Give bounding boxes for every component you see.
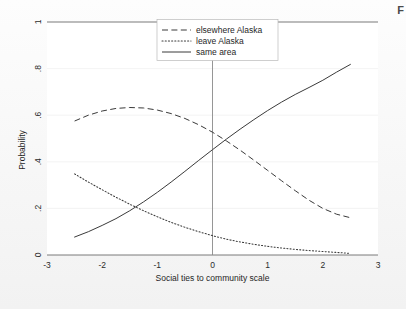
probability-plot: -3 -2 -1 0 1 2 3 Social ties to communit… [0, 0, 406, 290]
legend-label: same area [196, 47, 236, 57]
xtick-label: -1 [154, 260, 162, 270]
xtick-label: 2 [320, 260, 325, 270]
chart-legend: elsewhere Alaska leave Alaska same area [157, 20, 278, 61]
xtick-label: -2 [98, 260, 106, 270]
scanned-page: -3 -2 -1 0 1 2 3 Social ties to communit… [0, 0, 406, 309]
ytick-label: 0 [33, 252, 43, 257]
y-axis-title: Probability [17, 129, 27, 169]
xtick-label: -3 [43, 260, 51, 270]
ytick-label: .6 [33, 111, 43, 118]
xtick-label: 3 [376, 260, 381, 270]
chart-figure: -3 -2 -1 0 1 2 3 Social ties to communit… [0, 0, 406, 290]
x-axis-ticks: -3 -2 -1 0 1 2 3 [43, 260, 380, 270]
ytick-label: .2 [33, 205, 43, 212]
ytick-label: 1 [33, 19, 43, 24]
xtick-label: 1 [265, 260, 270, 270]
ytick-label: .4 [33, 158, 43, 165]
ytick-label: .8 [33, 65, 43, 72]
x-axis-title: Social ties to community scale [156, 273, 270, 283]
figure-corner-mark: F [397, 4, 404, 16]
y-axis-ticks: 0 .2 .4 .6 .8 1 [33, 19, 43, 257]
legend-label: elsewhere Alaska [196, 25, 262, 35]
xtick-label: 0 [210, 260, 215, 270]
legend-label: leave Alaska [196, 36, 244, 46]
